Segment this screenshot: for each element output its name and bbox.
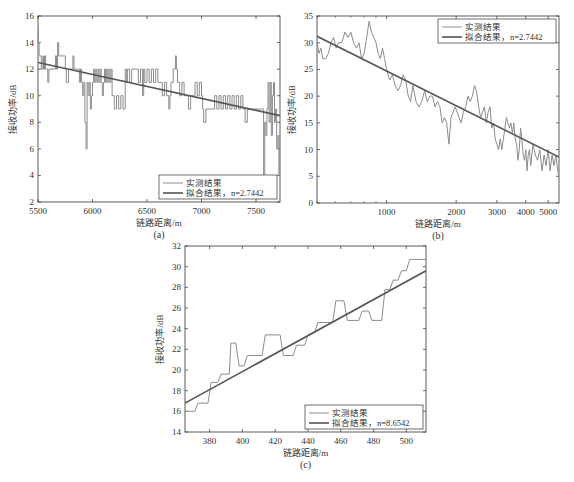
y-axis-label: 接收功率/dB: [286, 85, 297, 134]
x-axis-label: 链路距离/m: [415, 218, 461, 229]
y-tick-label: 4: [30, 170, 35, 180]
y-tick-label: 6: [30, 144, 35, 154]
y-tick-label: 10: [25, 91, 35, 101]
legend-label: 拟合结果，n=2.7442: [186, 188, 263, 198]
y-tick-label: 24: [172, 324, 182, 334]
y-tick-label: 32: [172, 241, 181, 251]
y-tick-label: 14: [172, 427, 182, 437]
y-tick-label: 18: [172, 386, 182, 396]
subplot-b: 0510152025303510002000300040005000实测结果拟合…: [286, 11, 559, 242]
x-tick-label: 380: [203, 436, 217, 446]
x-tick-label: 2000: [447, 207, 466, 217]
legend-label: 实测结果: [332, 408, 368, 418]
measured-line: [38, 29, 280, 175]
y-tick-label: 8: [30, 117, 35, 127]
y-tick-label: 14: [25, 38, 35, 48]
x-tick-label: 1000: [378, 207, 397, 217]
legend: 实测结果拟合结果，n=8.6542: [305, 405, 423, 429]
fit-line: [38, 63, 280, 116]
figure: 24681012141655006000650070007500实测结果拟合结果…: [0, 0, 574, 482]
measured-line: [185, 259, 426, 411]
subplot-c: 1416182022242628303238040042044046048050…: [154, 241, 426, 471]
x-tick-label: 440: [301, 436, 315, 446]
y-tick-label: 20: [304, 91, 314, 101]
y-tick-label: 10: [304, 145, 314, 155]
y-tick-label: 20: [172, 365, 182, 375]
x-tick-label: 4000: [517, 207, 536, 217]
x-tick-label: 3000: [488, 207, 507, 217]
y-tick-label: 16: [25, 11, 35, 21]
subplot-a: 24681012141655006000650070007500实测结果拟合结果…: [7, 11, 280, 241]
subplot-caption: (b): [432, 230, 444, 242]
x-tick-label: 5000: [539, 207, 558, 217]
y-tick-label: 15: [304, 118, 314, 128]
legend-label: 拟合结果，n=8.6542: [332, 418, 409, 428]
y-tick-label: 28: [172, 282, 182, 292]
y-tick-label: 35: [304, 11, 314, 21]
legend: 实测结果拟合结果，n=2.7442: [159, 175, 277, 199]
y-tick-label: 30: [172, 262, 182, 272]
legend-label: 实测结果: [465, 22, 501, 32]
y-axis-label: 接收功率/dB: [7, 84, 18, 133]
y-tick-label: 26: [172, 303, 182, 313]
y-tick-label: 0: [309, 198, 314, 208]
x-tick-label: 6000: [84, 206, 103, 216]
y-axis-label: 接收功率/dB: [154, 314, 165, 363]
fit-line: [185, 271, 426, 403]
legend: 实测结果拟合结果，n=2.7442: [438, 19, 556, 43]
x-tick-label: 460: [334, 436, 348, 446]
fit-line: [317, 36, 559, 157]
x-axis-label: 链路距离/m: [283, 447, 329, 458]
measured-line: [317, 21, 559, 176]
x-tick-label: 5500: [29, 206, 48, 216]
legend-label: 拟合结果，n=2.7442: [465, 32, 542, 42]
subplot-caption: (a): [153, 229, 164, 241]
x-tick-label: 500: [400, 436, 414, 446]
x-tick-label: 7500: [247, 206, 266, 216]
y-tick-label: 16: [172, 406, 182, 416]
x-tick-label: 400: [236, 436, 250, 446]
figure-canvas: 24681012141655006000650070007500实测结果拟合结果…: [0, 0, 574, 482]
y-tick-label: 25: [304, 64, 314, 74]
y-tick-label: 12: [25, 64, 34, 74]
legend-label: 实测结果: [186, 178, 222, 188]
x-axis-label: 链路距离/m: [136, 217, 182, 228]
x-tick-label: 420: [268, 436, 282, 446]
y-tick-label: 30: [304, 38, 314, 48]
x-tick-label: 7000: [193, 206, 212, 216]
y-tick-label: 22: [172, 344, 181, 354]
x-tick-label: 6500: [138, 206, 157, 216]
x-tick-label: 480: [367, 436, 381, 446]
axes-frame: [185, 246, 426, 432]
axes-frame: [317, 16, 559, 203]
subplot-caption: (c): [300, 459, 311, 471]
y-tick-label: 5: [309, 171, 314, 181]
